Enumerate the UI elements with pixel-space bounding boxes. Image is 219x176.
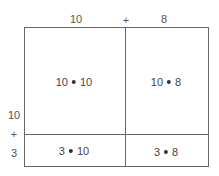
top-label-right: 8: [161, 13, 167, 25]
border-bottom: [24, 166, 209, 167]
border-left: [24, 27, 25, 167]
border-right: [208, 27, 209, 167]
cell-product-bottom-right: 38: [154, 146, 178, 158]
cell-product-top-left: 1010: [56, 76, 93, 88]
cell-product-bottom-left: 310: [59, 145, 89, 157]
cell-product-top-right: 108: [151, 76, 181, 88]
side-label-bottom: 3: [11, 147, 17, 159]
multiply-dot-icon: [69, 149, 73, 153]
border-top: [24, 27, 209, 28]
multiply-dot-icon: [167, 80, 171, 84]
multiply-dot-icon: [164, 150, 168, 154]
multiply-dot-icon: [72, 80, 76, 84]
top-label-plus: +: [123, 14, 129, 26]
side-label-plus: +: [11, 128, 17, 140]
divider-horizontal: [24, 134, 209, 135]
side-label-top: 10: [8, 109, 20, 121]
top-label-left: 10: [70, 13, 82, 25]
divider-vertical: [125, 27, 126, 167]
